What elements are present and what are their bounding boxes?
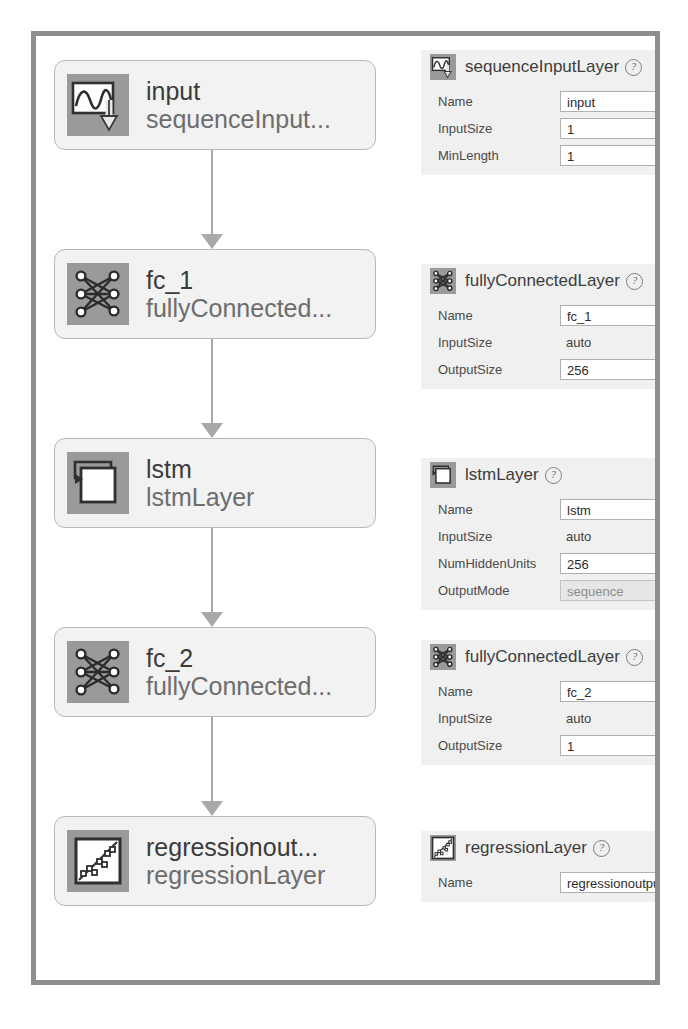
panel-title: fullyConnectedLayer [465, 647, 620, 667]
help-icon[interactable]: ? [625, 59, 642, 76]
node-name: fc_2 [146, 644, 332, 672]
connector-arrow-2 [201, 423, 223, 438]
property-row: Name input [421, 88, 660, 115]
property-row: MinLength 1 [421, 142, 660, 169]
property-row: InputSize auto [421, 523, 660, 550]
property-label: InputSize [438, 711, 560, 726]
fully-connected-icon [67, 641, 129, 703]
outputmode-dropdown[interactable]: sequence [560, 580, 660, 601]
properties-panel-fully-connected-1: fullyConnectedLayer ? Name fc_1 InputSiz… [421, 264, 660, 389]
fully-connected-icon [430, 644, 456, 670]
property-list: Name fc_2 InputSize auto OutputSize 1 [421, 674, 660, 765]
properties-panel-regression: regressionLayer ? Name regressionoutput [421, 831, 660, 902]
panel-title: lstmLayer [465, 465, 539, 485]
panel-header: lstmLayer ? [421, 458, 660, 492]
lstm-icon [67, 452, 129, 514]
screenshot-root: input sequenceInput... [0, 0, 688, 1029]
node-type: fullyConnected... [146, 672, 332, 700]
regression-icon [67, 830, 129, 892]
graph-node-fc-1[interactable]: fc_1 fullyConnected... [54, 249, 376, 339]
connector-line-4 [211, 717, 213, 807]
name-field[interactable]: regressionoutput [560, 872, 660, 893]
help-icon[interactable]: ? [593, 840, 610, 857]
property-row: OutputSize 1 [421, 732, 660, 759]
property-label: MinLength [438, 148, 560, 163]
property-row: Name lstm [421, 496, 660, 523]
property-row: OutputSize 256 [421, 356, 660, 383]
fully-connected-icon [67, 263, 129, 325]
properties-panel-lstm: lstmLayer ? Name lstm InputSize auto Num… [421, 458, 660, 610]
property-list: Name fc_1 InputSize auto OutputSize 256 [421, 298, 660, 389]
property-row: Name fc_1 [421, 302, 660, 329]
node-text-block: fc_2 fullyConnected... [146, 644, 332, 700]
graph-node-input[interactable]: input sequenceInput... [54, 60, 376, 150]
help-icon[interactable]: ? [545, 467, 562, 484]
property-label: InputSize [438, 529, 560, 544]
node-type: fullyConnected... [146, 294, 332, 322]
node-name: fc_1 [146, 266, 332, 294]
node-text-block: input sequenceInput... [146, 77, 331, 133]
property-label: NumHiddenUnits [438, 556, 560, 571]
node-name: regressionout... [146, 833, 325, 861]
connector-line-3 [211, 528, 213, 618]
property-label: OutputSize [438, 362, 560, 377]
graph-node-lstm[interactable]: lstm lstmLayer [54, 438, 376, 528]
panel-header: fullyConnectedLayer ? [421, 264, 660, 298]
property-label: Name [438, 502, 560, 517]
numhiddenunits-field[interactable]: 256 [560, 553, 660, 574]
node-text-block: fc_1 fullyConnected... [146, 266, 332, 322]
name-field[interactable]: input [560, 91, 660, 112]
outputsize-field[interactable]: 256 [560, 359, 660, 380]
node-type: lstmLayer [146, 483, 254, 511]
minlength-field[interactable]: 1 [560, 145, 660, 166]
property-row: NumHiddenUnits 256 [421, 550, 660, 577]
node-text-block: lstm lstmLayer [146, 455, 254, 511]
panel-header: fullyConnectedLayer ? [421, 640, 660, 674]
help-icon[interactable]: ? [626, 273, 643, 290]
property-label: OutputSize [438, 738, 560, 753]
sequence-input-icon [430, 54, 456, 80]
property-label: Name [438, 94, 560, 109]
property-list: Name lstm InputSize auto NumHiddenUnits … [421, 492, 660, 610]
node-text-block: regressionout... regressionLayer [146, 833, 325, 889]
graph-node-regressionoutput[interactable]: regressionout... regressionLayer [54, 816, 376, 906]
inputsize-value: auto [560, 711, 591, 726]
property-label: InputSize [438, 335, 560, 350]
fully-connected-icon [430, 268, 456, 294]
inputsize-field[interactable]: 1 [560, 118, 660, 139]
sequence-input-icon [67, 74, 129, 136]
network-canvas[interactable]: input sequenceInput... [36, 36, 655, 980]
name-field[interactable]: fc_1 [560, 305, 660, 326]
property-label: Name [438, 684, 560, 699]
property-list: Name regressionoutput [421, 865, 660, 902]
node-name: lstm [146, 455, 254, 483]
regression-icon [430, 835, 456, 861]
panel-title: sequenceInputLayer [465, 57, 619, 77]
name-field[interactable]: lstm [560, 499, 660, 520]
panel-title: regressionLayer [465, 838, 587, 858]
name-field[interactable]: fc_2 [560, 681, 660, 702]
property-row: InputSize 1 [421, 115, 660, 142]
properties-panel-sequence-input: sequenceInputLayer ? Name input InputSiz… [421, 50, 660, 175]
connector-line-1 [211, 150, 213, 240]
panel-title: fullyConnectedLayer [465, 271, 620, 291]
node-type: regressionLayer [146, 861, 325, 889]
property-row: InputSize auto [421, 705, 660, 732]
help-icon[interactable]: ? [626, 649, 643, 666]
inputsize-value: auto [560, 529, 591, 544]
node-type: sequenceInput... [146, 105, 331, 133]
property-label: InputSize [438, 121, 560, 136]
node-name: input [146, 77, 331, 105]
properties-panel-fully-connected-2: fullyConnectedLayer ? Name fc_2 InputSiz… [421, 640, 660, 765]
property-row: OutputMode sequence [421, 577, 660, 604]
property-row: Name fc_2 [421, 678, 660, 705]
outputsize-field[interactable]: 1 [560, 735, 660, 756]
property-list: Name input InputSize 1 MinLength 1 [421, 84, 660, 175]
panel-header: sequenceInputLayer ? [421, 50, 660, 84]
graph-node-fc-2[interactable]: fc_2 fullyConnected... [54, 627, 376, 717]
connector-arrow-4 [201, 801, 223, 816]
property-row: Name regressionoutput [421, 869, 660, 896]
inputsize-value: auto [560, 335, 591, 350]
property-label: OutputMode [438, 583, 560, 598]
property-row: InputSize auto [421, 329, 660, 356]
